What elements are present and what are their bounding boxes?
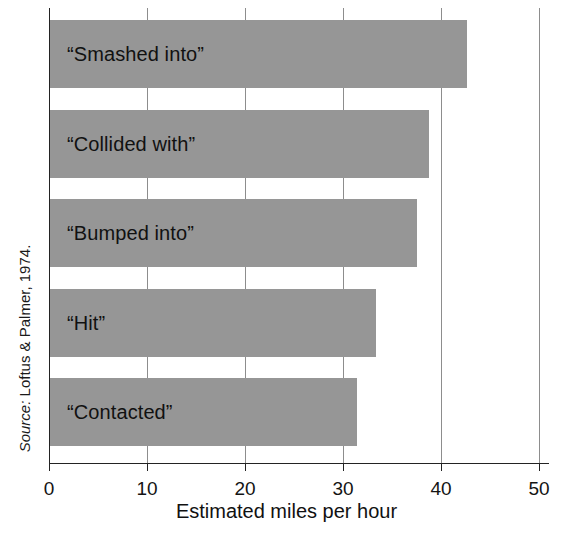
bar: “Bumped into” <box>50 199 417 267</box>
bar: “Contacted” <box>50 378 357 446</box>
plot-area: “Smashed into”“Collided with”“Bumped int… <box>49 8 539 463</box>
tick-20 <box>245 463 246 471</box>
tick-30 <box>343 463 344 471</box>
bar: “Hit” <box>50 289 376 357</box>
tick-50 <box>539 463 540 471</box>
bar-label: “Bumped into” <box>67 222 194 245</box>
bar-label: “Collided with” <box>67 132 195 155</box>
bar: “Smashed into” <box>50 20 467 88</box>
bar: “Collided with” <box>50 110 429 178</box>
tick-0 <box>49 463 50 471</box>
tick-label-20: 20 <box>234 478 255 500</box>
bar-label: “Smashed into” <box>67 43 204 66</box>
x-axis-title: Estimated miles per hour <box>0 500 573 523</box>
tick-label-50: 50 <box>528 478 549 500</box>
tick-label-40: 40 <box>430 478 451 500</box>
tick-label-10: 10 <box>136 478 157 500</box>
tick-40 <box>441 463 442 471</box>
source-label: Source: <box>16 401 33 453</box>
gridline-50 <box>539 8 540 463</box>
bar-label: “Contacted” <box>67 401 173 424</box>
source-note: Source: Loftus & Palmer, 1974. <box>16 229 33 469</box>
bar-label: “Hit” <box>67 311 105 334</box>
source-citation: Loftus & Palmer, 1974. <box>16 245 33 401</box>
tick-label-30: 30 <box>332 478 353 500</box>
chart-figure: y Source: Loftus & Palmer, 1974. “Smashe… <box>0 0 573 534</box>
tick-10 <box>147 463 148 471</box>
tick-label-0: 0 <box>44 478 55 500</box>
x-axis-line <box>49 463 549 464</box>
